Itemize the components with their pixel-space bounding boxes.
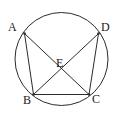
geometry-figure: A D B C E xyxy=(0,0,122,118)
vertex-point-b xyxy=(32,93,35,96)
segment-db xyxy=(34,34,99,95)
vertex-label-a: A xyxy=(8,21,17,33)
segment-ab xyxy=(25,34,34,95)
vertex-label-b: B xyxy=(23,94,31,106)
segment-dc xyxy=(89,34,99,95)
vertex-point-d xyxy=(97,32,100,35)
vertex-point-a xyxy=(23,32,26,35)
vertex-point-c xyxy=(88,93,91,96)
vertex-label-e: E xyxy=(56,57,63,69)
vertex-label-c: C xyxy=(92,93,100,105)
vertex-label-d: D xyxy=(101,21,110,33)
